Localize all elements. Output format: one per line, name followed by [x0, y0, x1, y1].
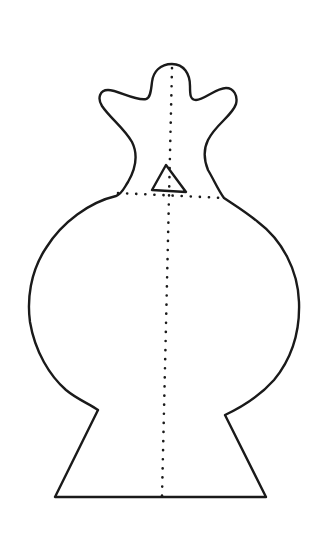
horizontal-dotted-line — [118, 193, 224, 198]
vertical-dotted-axis — [162, 68, 172, 496]
figure-canvas — [0, 0, 316, 536]
vase-figure-diagram — [0, 0, 316, 536]
